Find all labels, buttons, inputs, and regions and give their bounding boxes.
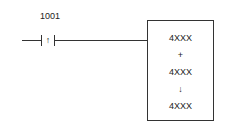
contact-address-label: 1001 xyxy=(40,11,60,21)
block-operand-1: 4XXX xyxy=(148,33,213,43)
result-down-arrow-icon: ↓ xyxy=(148,84,213,94)
transition-up-arrow-icon: ↑ xyxy=(44,34,52,46)
block-operator-plus: + xyxy=(148,50,213,60)
rung-wire-left xyxy=(22,40,41,41)
contact-left-bar xyxy=(41,35,42,46)
block-result: 4XXX xyxy=(148,101,213,111)
rung-wire-right xyxy=(55,40,147,41)
function-block: 4XXX + 4XXX ↓ 4XXX xyxy=(147,20,214,121)
block-operand-2: 4XXX xyxy=(148,67,213,77)
